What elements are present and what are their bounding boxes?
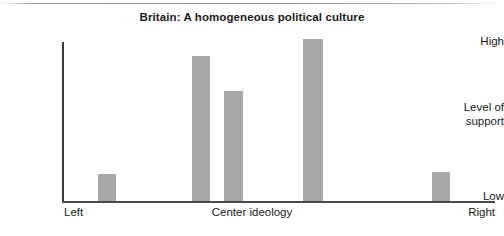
top-divider-rule (0, 3, 504, 4)
bar-center-left (192, 56, 210, 201)
x-axis-line (62, 201, 495, 203)
x-axis-title-center: Center ideology (0, 206, 504, 218)
bar-far-right (432, 172, 450, 201)
bar-center (224, 91, 243, 201)
y-axis-line (62, 42, 64, 201)
bar-far-left (98, 174, 116, 201)
x-axis-tick-right: Right (468, 206, 495, 218)
bar-center-right (303, 39, 323, 201)
chart-title: Britain: A homogeneous political culture (0, 11, 504, 23)
plot-area (62, 42, 495, 201)
chart-figure: Britain: A homogeneous political culture… (0, 0, 504, 236)
